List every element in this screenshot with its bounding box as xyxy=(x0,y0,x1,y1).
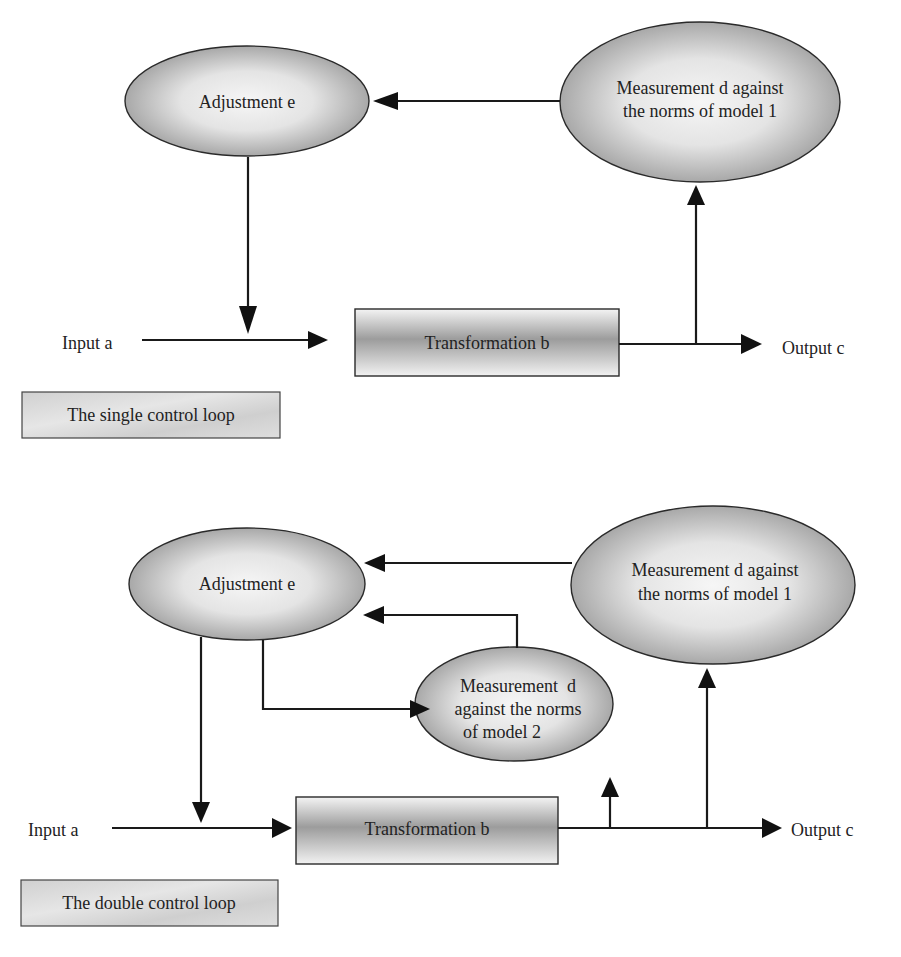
double-measurement2-node: Measurement d against the norms of model… xyxy=(415,647,613,761)
arrowhead-icon xyxy=(741,334,762,354)
double-adjustment-node: Adjustment e xyxy=(129,528,365,640)
arrowhead-icon xyxy=(373,92,398,110)
single-measurement1-label-line2: the norms of model 1 xyxy=(623,101,777,121)
double-measurement1-node: Measurement d against the norms of model… xyxy=(571,506,855,664)
arrowhead-icon xyxy=(239,306,257,334)
single-loop-caption: The single control loop xyxy=(22,392,280,438)
arrowhead-icon xyxy=(308,331,328,349)
single-input-label: Input a xyxy=(62,333,112,353)
double-measurement2-label-line3: of model 2 xyxy=(463,722,541,742)
arrowhead-icon xyxy=(364,554,385,572)
double-edge-measurement2-to-adjustment xyxy=(363,606,517,648)
single-transformation-node: Transformation b xyxy=(355,309,619,376)
single-adjustment-node: Adjustment e xyxy=(125,46,369,156)
arrowhead-icon xyxy=(363,606,384,624)
double-measurement2-label-line1: Measurement d xyxy=(460,676,576,696)
arrowhead-icon xyxy=(698,668,716,688)
double-edge-measurement1-to-adjustment xyxy=(364,554,572,572)
single-loop-caption-text: The single control loop xyxy=(67,405,234,425)
double-edge-output-to-measurement1 xyxy=(698,668,716,828)
double-adjustment-label: Adjustment e xyxy=(199,574,296,594)
double-output-label: Output c xyxy=(791,820,854,840)
double-transformation-node: Transformation b xyxy=(296,797,558,864)
single-edge-output-to-measurement1 xyxy=(687,185,705,344)
double-edge-transformation-to-output xyxy=(558,818,782,838)
double-loop-diagram: Adjustment e Measurement d against the n… xyxy=(21,506,855,926)
arrowhead-icon xyxy=(687,185,705,205)
double-edge-output-to-measurement2 xyxy=(601,777,619,828)
single-edge-input-to-transformation xyxy=(142,331,328,349)
double-loop-caption: The double control loop xyxy=(21,880,278,926)
arrowhead-icon xyxy=(192,802,210,823)
double-loop-caption-text: The double control loop xyxy=(62,893,235,913)
double-edge-adjustment-to-input xyxy=(192,637,210,823)
single-transformation-label: Transformation b xyxy=(425,333,550,353)
arrowhead-icon xyxy=(762,818,782,838)
single-adjustment-label: Adjustment e xyxy=(199,92,296,112)
single-edge-adjustment-to-input xyxy=(239,157,257,334)
arrowhead-icon xyxy=(272,818,292,838)
single-edge-measurement1-to-adjustment xyxy=(373,92,560,110)
double-edge-input-to-transformation xyxy=(112,818,292,838)
double-measurement1-label-line1: Measurement d against xyxy=(632,560,799,580)
control-loop-figure: Adjustment e Measurement d against the n… xyxy=(0,0,901,957)
single-edge-transformation-to-output xyxy=(619,334,762,354)
single-output-label: Output c xyxy=(782,338,845,358)
arrowhead-icon xyxy=(601,777,619,797)
double-input-label: Input a xyxy=(28,820,78,840)
double-measurement1-label-line2: the norms of model 1 xyxy=(638,584,792,604)
double-edge-adjustment-to-measurement2 xyxy=(263,640,430,718)
single-measurement1-label-line1: Measurement d against xyxy=(617,78,784,98)
double-measurement2-label-line2: against the norms xyxy=(455,699,582,719)
single-measurement1-node: Measurement d against the norms of model… xyxy=(560,22,840,182)
double-transformation-label: Transformation b xyxy=(365,819,490,839)
single-loop-diagram: Adjustment e Measurement d against the n… xyxy=(22,22,845,438)
